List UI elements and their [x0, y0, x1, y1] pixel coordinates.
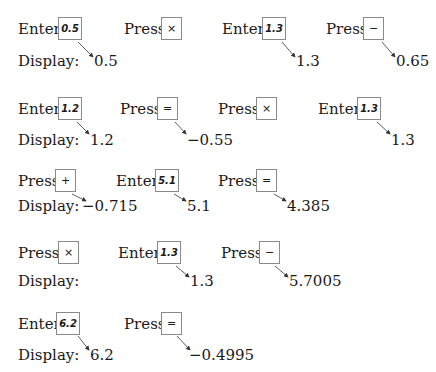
arrows — [0, 0, 436, 372]
